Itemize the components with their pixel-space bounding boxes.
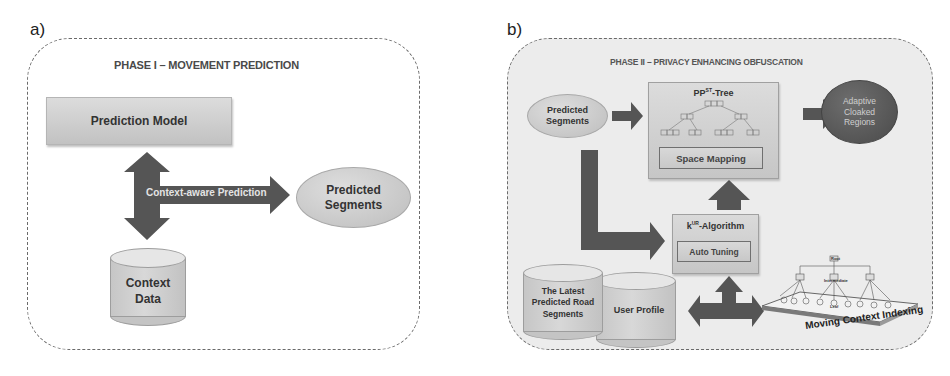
panel-b-label: b) — [507, 20, 522, 40]
auto-tuning-label: Auto Tuning — [689, 247, 738, 257]
tree-structure-icon — [649, 97, 778, 137]
context-data-cylinder: Context Data — [110, 248, 186, 326]
up-arrow-icon — [708, 180, 750, 210]
panel-a-label: a) — [30, 20, 45, 40]
auto-tuning-box: Auto Tuning — [677, 241, 751, 262]
adaptive-cloaked-regions-ellipse: Adaptive Cloaked Regions — [821, 80, 898, 144]
intermediate-level-label: Intermediate — [824, 278, 848, 283]
predicted-segments-ellipse-a: Predicted Segments — [296, 167, 411, 228]
ppst-tree-box: PPST-Tree Space Mapping — [648, 82, 779, 179]
panel-a-title: PHASE I – MOVEMENT PREDICTION — [114, 59, 299, 71]
kur-algorithm-title: kUR-Algorithm — [673, 220, 758, 231]
root-level-label: Root — [831, 256, 840, 261]
t-shaped-arrow-icon — [688, 276, 764, 327]
right-arrow-icon — [612, 102, 643, 130]
space-mapping-box: Space Mapping — [659, 147, 763, 169]
prediction-model-label: Prediction Model — [91, 114, 188, 128]
latest-segments-line3: Segments — [523, 309, 603, 320]
cloaked-regions-line2: Cloaked — [843, 107, 876, 118]
user-profile-label: User Profile — [596, 305, 676, 317]
user-profile-cylinder: User Profile — [596, 272, 676, 348]
cloaked-regions-line3: Regions — [843, 117, 876, 128]
latest-road-segments-cylinder: The Latest Predicted Road Segments — [523, 264, 603, 340]
latest-segments-line2: Predicted Road — [523, 297, 603, 308]
context-aware-prediction-label: Context-aware Prediction — [146, 187, 267, 198]
latest-segments-line1: The Latest — [523, 286, 603, 297]
kur-algorithm-box: kUR-Algorithm Auto Tuning — [672, 214, 759, 274]
leaf-level-label: Leaf — [830, 304, 838, 309]
prediction-model-box: Prediction Model — [46, 97, 232, 145]
context-data-line1: Context — [110, 276, 186, 292]
context-data-line2: Data — [110, 292, 186, 308]
cloaked-regions-line1: Adaptive — [843, 96, 876, 107]
space-mapping-label: Space Mapping — [676, 153, 746, 164]
predicted-segments-line1: Predicted — [325, 183, 382, 198]
predicted-segments-line2: Segments — [325, 198, 382, 213]
